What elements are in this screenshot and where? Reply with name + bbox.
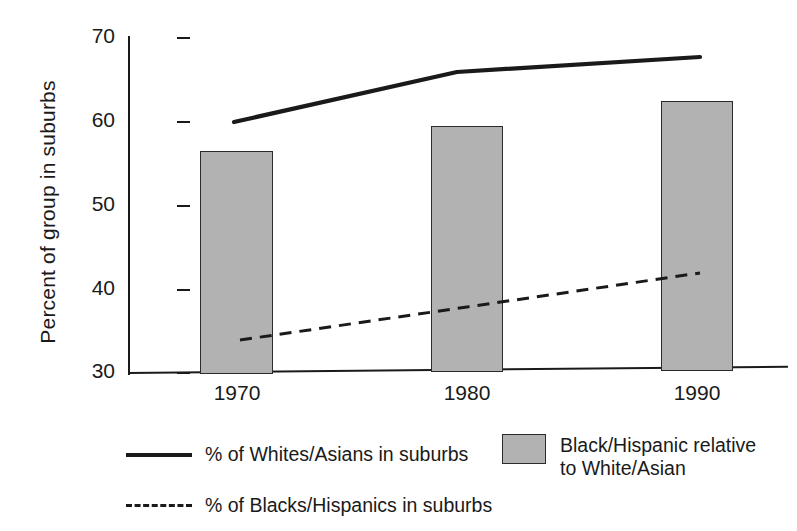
legend-label-relative-ratio: Black/Hispanic relative to White/Asian bbox=[560, 434, 756, 480]
y-tick-mark bbox=[177, 289, 190, 291]
legend-item-whites-asians[interactable]: % of Whites/Asians in suburbs bbox=[126, 443, 468, 466]
legend-item-blacks-hispanics[interactable]: % of Blacks/Hispanics in suburbs bbox=[126, 494, 492, 517]
bar-swatch-icon bbox=[502, 434, 546, 464]
bar-1970[interactable] bbox=[200, 151, 273, 374]
y-axis-line bbox=[128, 36, 130, 375]
legend-label-whites-asians: % of Whites/Asians in suburbs bbox=[205, 443, 468, 466]
dashed-line-key-icon bbox=[126, 504, 192, 507]
legend-item-relative-ratio[interactable]: Black/Hispanic relative to White/Asian bbox=[502, 434, 756, 480]
y-tick-mark bbox=[177, 205, 190, 207]
line-whites-asians bbox=[234, 57, 700, 122]
legend-label-relative-ratio-line2: to White/Asian bbox=[560, 457, 756, 480]
chart-figure: Percent of group in suburbs 70 60 50 40 … bbox=[0, 0, 797, 531]
y-tick-label: 70 bbox=[71, 24, 115, 48]
y-tick-label: 40 bbox=[71, 276, 115, 300]
bar-1990[interactable] bbox=[661, 101, 733, 371]
y-axis-title: Percent of group in suburbs bbox=[36, 42, 60, 382]
y-tick-label: 30 bbox=[71, 359, 115, 383]
bar-1980[interactable] bbox=[431, 126, 503, 372]
y-tick-label: 60 bbox=[71, 108, 115, 132]
legend-label-blacks-hispanics: % of Blacks/Hispanics in suburbs bbox=[205, 494, 492, 517]
x-tick-label-1990: 1990 bbox=[637, 381, 757, 405]
solid-line-key-icon bbox=[126, 453, 192, 457]
y-tick-mark bbox=[177, 37, 190, 39]
y-tick-mark bbox=[177, 372, 190, 374]
x-tick-label-1970: 1970 bbox=[177, 381, 297, 405]
x-tick-label-1980: 1980 bbox=[407, 381, 527, 405]
y-tick-label: 50 bbox=[71, 192, 115, 216]
legend-label-relative-ratio-line1: Black/Hispanic relative bbox=[560, 434, 756, 456]
y-tick-mark bbox=[177, 121, 190, 123]
legend: % of Whites/Asians in suburbs % of Black… bbox=[0, 424, 797, 531]
